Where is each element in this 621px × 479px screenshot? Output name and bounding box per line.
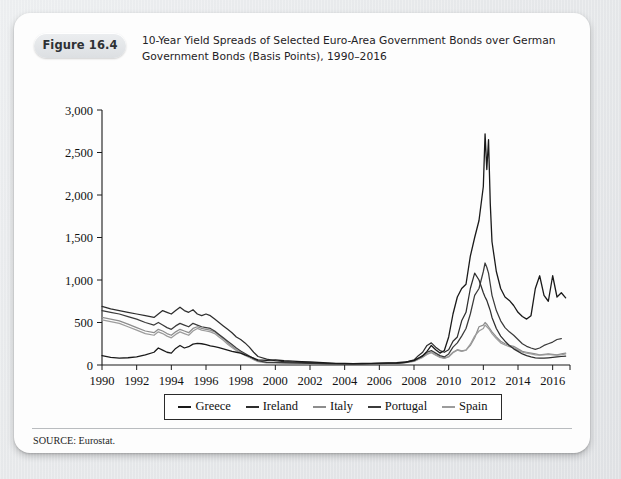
legend-swatch-icon xyxy=(178,406,191,408)
x-axis-tick-label: 2012 xyxy=(471,374,496,388)
footer-divider xyxy=(32,428,572,429)
x-axis-tick-label: 1992 xyxy=(124,374,149,388)
legend-label: Portugal xyxy=(385,399,427,414)
legend-swatch-icon xyxy=(368,406,381,408)
chart-plot-area: 05001,0001,5002,0002,5003,00019901992199… xyxy=(24,98,580,423)
x-axis-tick-label: 2004 xyxy=(332,374,358,388)
x-axis-tick-label: 2014 xyxy=(506,374,532,388)
legend-swatch-icon xyxy=(246,406,259,408)
x-axis-tick-label: 2010 xyxy=(436,374,461,388)
y-axis-tick-label: 500 xyxy=(74,316,93,330)
x-axis-tick-label: 1990 xyxy=(90,374,115,388)
x-axis-tick-label: 2016 xyxy=(540,374,565,388)
y-axis-tick-label: 2,000 xyxy=(65,189,93,203)
y-axis-tick-label: 3,000 xyxy=(65,104,93,118)
line-chart: 05001,0001,5002,0002,5003,00019901992199… xyxy=(24,98,580,423)
legend-item-spain[interactable]: Spain xyxy=(442,399,487,414)
legend-item-greece[interactable]: Greece xyxy=(178,399,230,414)
series-line-ireland xyxy=(102,273,566,364)
chart-legend: GreeceIrelandItalyPortugalSpain xyxy=(164,394,502,420)
x-axis-tick-label: 2006 xyxy=(367,374,392,388)
source-note: SOURCE: Eurostat. xyxy=(33,435,115,446)
x-axis-tick-label: 1998 xyxy=(228,374,253,388)
page-background: Figure 16.4 10-Year Yield Spreads of Sel… xyxy=(0,0,621,479)
legend-label: Greece xyxy=(195,399,230,414)
figure-number-badge: Figure 16.4 xyxy=(34,33,126,58)
figure-card: Figure 16.4 10-Year Yield Spreads of Sel… xyxy=(14,13,590,453)
legend-swatch-icon xyxy=(442,406,455,408)
figure-title: 10-Year Yield Spreads of Selected Euro-A… xyxy=(142,33,576,64)
x-axis-tick-label: 2008 xyxy=(402,374,427,388)
y-axis-tick-label: 1,000 xyxy=(65,274,93,288)
x-axis-tick-label: 1994 xyxy=(159,374,185,388)
legend-item-italy[interactable]: Italy xyxy=(313,399,353,414)
figure-header: Figure 16.4 10-Year Yield Spreads of Sel… xyxy=(14,33,576,64)
legend-swatch-icon xyxy=(313,406,326,408)
y-axis-tick-label: 2,500 xyxy=(65,146,93,160)
x-axis-tick-label: 2002 xyxy=(298,374,323,388)
x-axis-tick-label: 2000 xyxy=(263,374,288,388)
legend-item-ireland[interactable]: Ireland xyxy=(246,399,298,414)
y-axis-tick-label: 0 xyxy=(87,359,93,373)
legend-label: Ireland xyxy=(263,399,298,414)
y-axis-tick-label: 1,500 xyxy=(65,231,93,245)
legend-item-portugal[interactable]: Portugal xyxy=(368,399,427,414)
legend-label: Spain xyxy=(459,399,487,414)
series-line-italy xyxy=(102,317,566,364)
x-axis-tick-label: 1996 xyxy=(194,374,219,388)
legend-label: Italy xyxy=(330,399,353,414)
